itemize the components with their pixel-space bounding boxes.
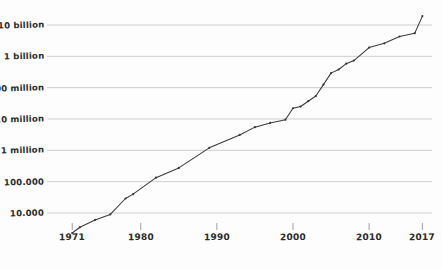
data-point-marker — [79, 226, 81, 228]
data-point-markers — [71, 15, 423, 234]
data-point-marker — [322, 84, 324, 86]
data-point-marker — [368, 47, 370, 49]
y-axis-tick-label: 10.000 — [10, 208, 44, 219]
data-point-marker — [315, 95, 317, 97]
data-point-marker — [284, 119, 286, 121]
gridlines — [47, 25, 432, 213]
data-series-line — [72, 16, 422, 233]
chart-container: 10 billion1 billion100 million10 million… — [0, 0, 442, 269]
x-axis-tick-marks — [72, 223, 422, 230]
data-point-marker — [208, 147, 210, 149]
data-point-marker — [299, 105, 301, 107]
y-axis-tick-label: 1 billion — [4, 51, 45, 62]
y-axis-tick-label: 10 billion — [0, 19, 44, 30]
x-axis-tick-label: 1971 — [59, 232, 85, 242]
data-point-marker — [94, 219, 96, 221]
x-axis-tick-label: 1990 — [204, 232, 230, 242]
x-axis-tick-label: 2010 — [356, 232, 382, 242]
data-point-marker — [124, 197, 126, 199]
data-point-marker — [414, 32, 416, 34]
x-axis-tick-label: 1980 — [128, 232, 154, 242]
data-point-marker — [269, 122, 271, 124]
data-point-marker — [353, 60, 355, 62]
data-point-marker — [132, 193, 134, 195]
y-axis-tick-label: 1 million — [1, 145, 44, 156]
data-point-marker — [338, 68, 340, 70]
x-axis-tick-label: 2000 — [280, 232, 306, 242]
x-axis-tick-label: 2017 — [409, 232, 435, 242]
data-point-marker — [345, 63, 347, 65]
data-point-marker — [109, 213, 111, 215]
data-point-marker — [398, 35, 400, 37]
data-point-marker — [239, 134, 241, 136]
data-point-marker — [254, 126, 256, 128]
y-axis-tick-label: 100 million — [0, 82, 44, 93]
y-axis-tick-label: 100.000 — [4, 176, 44, 187]
data-point-marker — [155, 177, 157, 179]
data-point-marker — [307, 100, 309, 102]
data-point-marker — [421, 15, 423, 17]
y-axis-tick-label: 10 million — [0, 113, 44, 124]
chart-plot-svg — [0, 0, 442, 269]
data-point-marker — [383, 42, 385, 44]
data-point-marker — [178, 167, 180, 169]
data-point-marker — [330, 72, 332, 74]
data-point-marker — [292, 107, 294, 109]
